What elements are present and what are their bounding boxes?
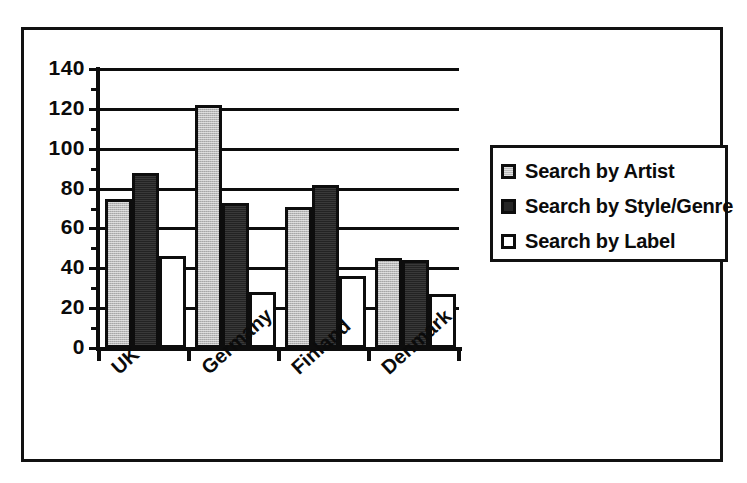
bar [159,256,186,348]
y-axis-tick [89,267,100,270]
y-axis-tick-label: 60 [25,215,85,239]
y-axis-minor-tick [91,88,100,91]
y-axis-minor-tick [91,208,100,211]
x-axis-tick [97,349,101,361]
y-axis-minor-tick [91,327,100,330]
y-axis-tick-label: 80 [25,176,85,200]
figure-frame: 020406080100120140 UKGermanyFinlandDenma… [21,27,723,462]
x-axis-tick [367,349,371,361]
bar [285,207,312,348]
gridline [99,108,459,111]
legend-label: Search by Label [525,230,675,253]
y-axis-tick [89,227,100,230]
y-axis-minor-tick [91,128,100,131]
bar-chart: 020406080100120140 UKGermanyFinlandDenma… [3,3,747,483]
plot-area [99,69,459,348]
legend-swatch-icon [501,164,516,179]
y-axis-tick [89,108,100,111]
x-axis-tick [457,349,461,361]
legend-label: Search by Artist [525,160,674,183]
gridline [99,148,459,151]
chart-legend: Search by ArtistSearch by Style/GenreSea… [490,145,728,262]
y-axis-tick-label: 100 [25,136,85,160]
x-axis-tick [187,349,191,361]
y-axis-tick-label: 20 [25,295,85,319]
bar [132,173,159,348]
legend-swatch-icon [501,199,516,214]
y-axis-tick-label: 0 [25,335,85,359]
y-axis-tick-labels: 020406080100120140 [21,3,85,483]
bar [195,105,222,348]
legend-item: Search by Label [501,224,717,259]
y-axis-minor-tick [91,168,100,171]
y-axis-minor-tick [91,247,100,250]
bar [105,199,132,348]
y-axis-tick-label: 120 [25,96,85,120]
x-axis-tick [277,349,281,361]
legend-label: Search by Style/Genre [525,195,733,218]
bar [375,258,402,348]
y-axis-tick [89,148,100,151]
y-axis-tick [89,188,100,191]
y-axis-tick [89,68,100,71]
y-axis-minor-tick [91,287,100,290]
legend-item: Search by Style/Genre [501,189,717,224]
gridline [99,68,459,71]
legend-swatch-icon [501,234,516,249]
y-axis-tick [89,307,100,310]
y-axis-tick-label: 40 [25,255,85,279]
y-axis-tick-label: 140 [25,56,85,80]
legend-item: Search by Artist [501,154,717,189]
